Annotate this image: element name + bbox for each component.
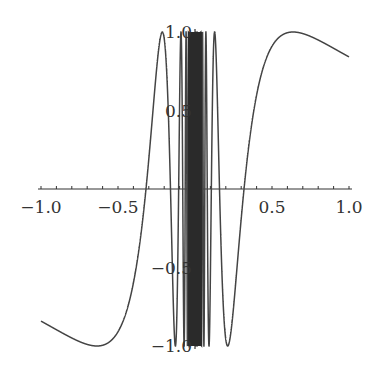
y-tick-label: 0.5 bbox=[165, 101, 192, 121]
x-tick-label: −0.5 bbox=[97, 197, 138, 217]
x-tick-label: 0.5 bbox=[258, 197, 285, 217]
x-tick-label: 1.0 bbox=[335, 197, 362, 217]
dense-oscillation-band bbox=[188, 32, 202, 346]
y-tick-label: 1.0 bbox=[165, 22, 192, 42]
y-tick-label: −1.0 bbox=[151, 336, 192, 356]
sine-reciprocal-plot: −1.0−0.50.51.01.00.5−0.5−1.0 bbox=[0, 0, 377, 376]
x-tick-label: −1.0 bbox=[20, 197, 61, 217]
y-tick-label: −0.5 bbox=[151, 258, 192, 278]
